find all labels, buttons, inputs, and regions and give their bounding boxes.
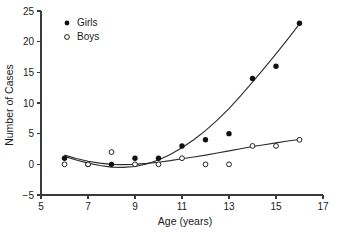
data-point-girls	[297, 21, 302, 26]
x-tick-label: 13	[223, 201, 235, 212]
y-axis-title: Number of Cases	[3, 64, 15, 146]
x-tick-label: 5	[38, 201, 44, 212]
data-point-girls	[203, 137, 208, 142]
legend-label-girls: Girls	[77, 17, 98, 28]
data-point-girls	[226, 131, 231, 136]
y-tick-label: 5	[28, 128, 34, 139]
data-points	[62, 21, 302, 167]
data-point-girls	[156, 156, 161, 161]
y-tick-label: −5	[23, 190, 35, 201]
data-point-girls	[250, 76, 255, 81]
data-point-boys	[250, 144, 255, 149]
x-tick-label: 9	[132, 201, 138, 212]
y-tick-label: 20	[23, 36, 35, 47]
x-tick-label: 11	[177, 201, 188, 212]
data-point-boys	[297, 137, 302, 142]
data-point-boys	[274, 144, 279, 149]
data-point-girls	[273, 63, 278, 68]
data-point-boys	[180, 156, 185, 161]
data-point-boys	[133, 162, 138, 167]
data-point-girls	[179, 143, 184, 148]
y-axis: −50510152025	[23, 6, 41, 201]
scatter-plot: −50510152025 57911131517 GirlsBoys Age (…	[0, 0, 346, 233]
legend-marker-girls	[65, 21, 70, 26]
x-tick-label: 17	[317, 201, 329, 212]
data-point-boys	[62, 162, 67, 167]
x-tick-label: 15	[270, 201, 282, 212]
data-point-boys	[203, 162, 208, 167]
legend-label-boys: Boys	[77, 31, 99, 42]
data-point-boys	[227, 162, 232, 167]
y-tick-label: 15	[23, 67, 35, 78]
data-point-boys	[109, 150, 114, 155]
x-axis-title: Age (years)	[158, 215, 212, 227]
data-point-boys	[86, 162, 91, 167]
y-tick-label: 25	[23, 6, 35, 17]
data-point-girls	[132, 156, 137, 161]
chart-container: −50510152025 57911131517 GirlsBoys Age (…	[0, 0, 346, 233]
data-point-girls	[62, 156, 67, 161]
x-tick-label: 7	[85, 201, 91, 212]
y-tick-label: 10	[23, 98, 35, 109]
data-point-girls	[109, 162, 114, 167]
x-axis: 57911131517	[38, 195, 329, 212]
legend-marker-boys	[65, 35, 70, 40]
data-point-boys	[156, 162, 161, 167]
chart-legend: GirlsBoys	[65, 17, 100, 42]
y-tick-label: 0	[28, 159, 34, 170]
